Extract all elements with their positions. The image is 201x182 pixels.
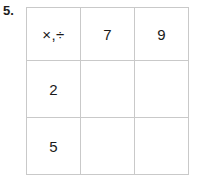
grid-answer-cell-r1c2[interactable] [135, 61, 189, 118]
exercise-container: 5. ×,÷ 7 9 2 5 [0, 0, 201, 182]
grid-row-header-cell-2: 5 [27, 118, 81, 175]
grid-column-header-cell-1: 7 [81, 8, 135, 61]
grid-operation-header-cell: ×,÷ [27, 8, 81, 61]
multiplication-division-grid: ×,÷ 7 9 2 5 [26, 7, 189, 175]
table-row: ×,÷ 7 9 [27, 8, 189, 61]
table-row: 5 [27, 118, 189, 175]
grid-row-header-cell-1: 2 [27, 61, 81, 118]
table-row: 2 [27, 61, 189, 118]
grid-answer-cell-r2c1[interactable] [81, 118, 135, 175]
exercise-number-label: 5. [3, 4, 14, 18]
grid-answer-cell-r1c1[interactable] [81, 61, 135, 118]
grid-column-header-cell-2: 9 [135, 8, 189, 61]
grid-answer-cell-r2c2[interactable] [135, 118, 189, 175]
